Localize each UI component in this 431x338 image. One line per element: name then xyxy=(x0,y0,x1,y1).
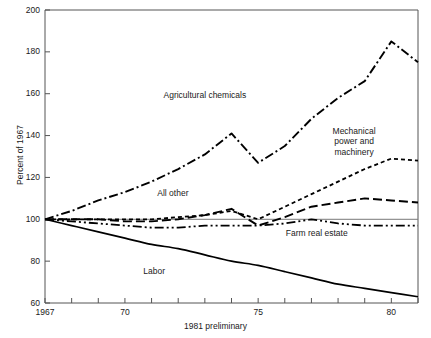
y-tick-label: 100 xyxy=(14,214,40,224)
series-label-farm-real-estate: Farm real estate xyxy=(286,228,348,239)
series-line-farm-real-estate xyxy=(45,219,418,227)
series-label-agricultural-chemicals: Agricultural chemicals xyxy=(164,90,247,101)
y-tick-label: 160 xyxy=(14,88,40,98)
chart-figure: Percent of 1967 1981 preliminary 6080100… xyxy=(0,0,431,338)
series-label-all-other: All other xyxy=(157,188,188,199)
y-tick-label: 80 xyxy=(14,256,40,266)
x-tick-label: 1967 xyxy=(25,307,65,317)
x-tick-label: 80 xyxy=(371,307,411,317)
y-axis-title: Percent of 1967 xyxy=(15,114,25,196)
y-tick-label: 140 xyxy=(14,130,40,140)
series-line-all-other xyxy=(45,198,418,225)
y-tick-label: 120 xyxy=(14,172,40,182)
series-line-labor xyxy=(45,219,418,296)
x-tick-label: 70 xyxy=(105,307,145,317)
y-tick-label: 200 xyxy=(14,5,40,15)
line-chart-plot xyxy=(0,0,431,338)
y-tick-label: 180 xyxy=(14,46,40,56)
series-label-labor: Labor xyxy=(143,266,165,277)
y-tick-label: 60 xyxy=(14,298,40,308)
series-label-mechanical-power-and-machinery: Mechanical power and machinery xyxy=(322,126,386,158)
x-axis-caption: 1981 preliminary xyxy=(0,321,431,331)
series-line-mechanical-power-and-machinery xyxy=(45,159,418,220)
x-tick-label: 75 xyxy=(238,307,278,317)
